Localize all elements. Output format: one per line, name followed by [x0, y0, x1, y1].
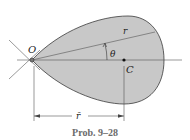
figure-caption: Prob. 9–28 — [72, 127, 118, 138]
diagram-canvas: O C r θ r̄ Prob. 9–28 — [0, 0, 190, 140]
dimension-arrow-right-icon — [118, 114, 124, 117]
dimension-arrow-left-icon — [34, 114, 40, 117]
radius-label: r — [123, 26, 128, 36]
origin-point — [30, 58, 34, 62]
rbar-label: r̄ — [76, 111, 81, 121]
origin-label: O — [28, 44, 36, 55]
centroid-label: C — [126, 64, 134, 75]
angle-label: θ — [110, 49, 116, 59]
centroid-point — [122, 58, 125, 61]
